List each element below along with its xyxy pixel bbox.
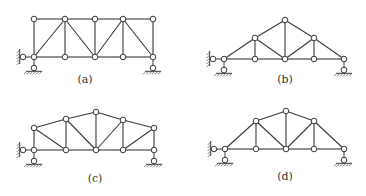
- truss-member: [224, 38, 255, 59]
- truss-member: [34, 19, 65, 57]
- truss-member: [65, 19, 95, 57]
- truss-joint: [92, 16, 98, 22]
- truss-joint: [31, 147, 37, 153]
- truss-joint: [283, 108, 289, 114]
- panel-label: (c): [88, 172, 103, 185]
- truss-member: [225, 121, 256, 149]
- truss-joint: [63, 116, 69, 122]
- truss-joint: [151, 147, 157, 153]
- truss-joint: [221, 56, 227, 62]
- truss-figure: (a) (b) (c) (d): [0, 0, 366, 196]
- truss-member: [255, 38, 285, 59]
- truss-joint: [282, 56, 288, 62]
- truss-joint: [31, 125, 37, 131]
- truss-joint: [311, 118, 317, 124]
- truss-joint: [222, 146, 228, 152]
- panel-label: (d): [277, 170, 293, 183]
- panel-d: (d): [208, 108, 352, 183]
- panel-label: (b): [277, 73, 293, 86]
- truss-member: [314, 38, 344, 59]
- support-hinge: [211, 146, 217, 152]
- truss-joint: [151, 125, 157, 131]
- truss-joint: [120, 117, 126, 123]
- support-hinge: [210, 56, 216, 62]
- truss-joint: [311, 146, 317, 152]
- support-hinge: [20, 147, 26, 153]
- truss-joint: [62, 54, 68, 60]
- truss-joint: [120, 147, 126, 153]
- panel-b: (b): [207, 17, 352, 86]
- truss-joint: [341, 146, 347, 152]
- support-hinge: [341, 67, 347, 73]
- truss-joint: [120, 54, 126, 60]
- truss-member: [123, 128, 154, 150]
- truss-member: [255, 20, 285, 38]
- truss-joint: [150, 54, 156, 60]
- support-hinge: [341, 157, 347, 163]
- truss-joint: [253, 118, 259, 124]
- truss-joint: [311, 56, 317, 62]
- ground-hatch: [215, 163, 218, 166]
- truss-member: [123, 120, 154, 128]
- ground-hatch: [24, 164, 27, 167]
- ground-hatch: [334, 163, 337, 166]
- truss-joint: [282, 17, 288, 23]
- panel-a: (a): [17, 16, 161, 86]
- truss-member: [96, 120, 123, 150]
- truss-member: [286, 121, 314, 149]
- truss-joint: [252, 56, 258, 62]
- truss-joint: [252, 35, 258, 41]
- ground-hatch: [24, 71, 27, 74]
- truss-member: [285, 20, 314, 38]
- support-hinge: [151, 158, 157, 164]
- ground-hatch: [214, 73, 217, 76]
- truss-joint: [62, 16, 68, 22]
- truss-joint: [150, 16, 156, 22]
- truss-joint: [93, 109, 99, 115]
- truss-member: [96, 112, 123, 120]
- truss-member: [34, 128, 66, 150]
- truss-member: [66, 112, 96, 119]
- truss-joint: [341, 56, 347, 62]
- support-hinge: [31, 65, 37, 71]
- truss-joint: [120, 16, 126, 22]
- truss-member: [285, 38, 314, 59]
- truss-member: [95, 19, 123, 57]
- support-hinge: [221, 67, 227, 73]
- truss-member: [66, 119, 96, 150]
- truss-joint: [63, 147, 69, 153]
- ground-hatch: [144, 164, 147, 167]
- truss-joint: [31, 16, 37, 22]
- support-hinge: [150, 65, 156, 71]
- truss-joint: [311, 35, 317, 41]
- panel-label: (a): [77, 73, 92, 86]
- truss-joint: [92, 54, 98, 60]
- truss-joint: [93, 147, 99, 153]
- panel-c: (c): [17, 109, 162, 185]
- truss-member: [256, 111, 286, 121]
- truss-member: [34, 119, 66, 128]
- truss-member: [286, 111, 314, 121]
- truss-member: [123, 19, 153, 57]
- support-hinge: [222, 157, 228, 163]
- support-hinge: [20, 54, 26, 60]
- support-hinge: [31, 158, 37, 164]
- truss-member: [314, 121, 344, 149]
- truss-joint: [31, 54, 37, 60]
- truss-joint: [283, 146, 289, 152]
- truss-joint: [253, 146, 259, 152]
- truss-member: [256, 121, 286, 149]
- ground-hatch: [143, 71, 146, 74]
- ground-hatch: [334, 73, 337, 76]
